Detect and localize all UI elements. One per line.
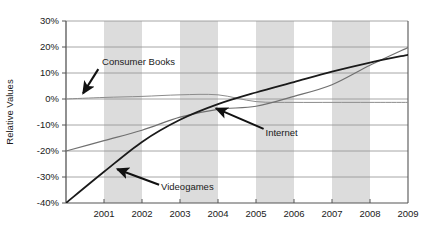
shaded-band [332, 21, 370, 203]
x-tick-label: 2006 [283, 208, 304, 219]
annotation-label: Consumer Books [102, 56, 175, 67]
x-tick-label: 2004 [207, 208, 228, 219]
line-chart: 200120022003200420052006200720082009 30%… [0, 0, 423, 243]
y-tick-label: 20% [40, 41, 60, 52]
y-tick-label: -10% [37, 119, 60, 130]
chart-figure: 200120022003200420052006200720082009 30%… [0, 0, 423, 243]
x-tick-label: 2001 [93, 208, 114, 219]
x-tick-label: 2007 [321, 208, 342, 219]
annotation-label: Internet [266, 127, 299, 138]
y-tick-label: -40% [37, 197, 60, 208]
x-tick-label: 2003 [169, 208, 190, 219]
y-tick-label: 30% [40, 15, 60, 26]
y-axis-tick-labels: 30%20%10%0%-10%-20%-30%-40% [37, 15, 60, 208]
x-tick-label: 2008 [359, 208, 380, 219]
y-axis-title: Relative Values [4, 79, 15, 145]
x-tick-label: 2005 [245, 208, 266, 219]
x-tick-label: 2009 [397, 208, 418, 219]
y-tick-label: -20% [37, 145, 60, 156]
shaded-band [256, 21, 294, 203]
annotation-label: Videogames [161, 181, 214, 192]
y-tick-label: -30% [37, 171, 60, 182]
x-tick-label: 2002 [131, 208, 152, 219]
y-tick-label: 10% [40, 67, 60, 78]
x-axis-tick-labels: 200120022003200420052006200720082009 [93, 208, 418, 219]
y-tick-label: 0% [45, 93, 59, 104]
